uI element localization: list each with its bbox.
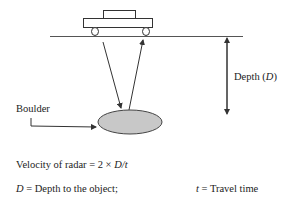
boulder-shape — [98, 110, 162, 134]
wheel-right-icon — [143, 28, 150, 36]
legend-time-text: = Travel time — [199, 183, 258, 194]
legend-depth: D = Depth to the object; — [16, 184, 118, 195]
formula-var-d: D — [114, 159, 122, 170]
boulder-label: Boulder — [16, 104, 50, 115]
wheel-left-icon — [92, 28, 99, 36]
legend-depth-text: = Depth to the object; — [24, 183, 118, 194]
formula-var-t: t — [125, 159, 128, 170]
transmitted-ray-arrow — [103, 42, 121, 108]
depth-label-suffix: ) — [273, 71, 277, 82]
legend-time: t = Travel time — [196, 184, 258, 195]
reflected-ray-arrow — [129, 40, 143, 110]
boulder-leader-arrow — [31, 118, 96, 127]
legend-depth-var: D — [16, 183, 24, 194]
radar-vehicle-icon — [84, 11, 153, 36]
depth-label-text: Depth ( — [234, 71, 266, 82]
gpr-diagram: Depth (D) Boulder Velocity of radar = 2 … — [0, 0, 287, 200]
velocity-formula: Velocity of radar = 2 × D/t — [16, 160, 128, 171]
formula-prefix: Velocity of radar = — [16, 159, 98, 170]
formula-coefficient: 2 × — [98, 159, 114, 170]
depth-label: Depth (D) — [234, 72, 277, 83]
